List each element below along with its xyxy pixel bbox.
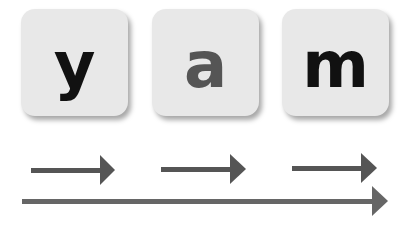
short-arrow-3 <box>292 153 377 183</box>
long-arrow <box>22 186 388 216</box>
short-arrow-1 <box>31 155 115 185</box>
arrows-diagram <box>0 0 415 238</box>
short-arrow-2 <box>161 154 246 184</box>
